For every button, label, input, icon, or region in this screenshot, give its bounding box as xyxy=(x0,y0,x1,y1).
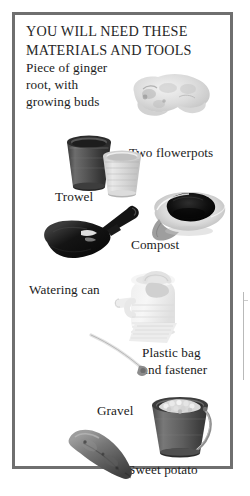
item-label-watering-can: Watering can xyxy=(29,282,100,297)
ginger-root-image xyxy=(121,67,217,125)
plastic-bag-and-fastener-image xyxy=(89,321,181,381)
compost-image xyxy=(141,183,233,247)
gravel-bucket-image xyxy=(145,391,221,465)
sweet-potato-image xyxy=(59,423,145,485)
page-margin-tick xyxy=(244,300,248,301)
page-margin-rule xyxy=(243,292,244,380)
item-label-ginger: Piece of ginger root, with growing buds xyxy=(26,60,107,111)
page-root: YOU WILL NEED THESE MATERIALS AND TOOLS … xyxy=(0,0,250,496)
trowel-image xyxy=(37,202,143,264)
item-label-gravel: Gravel xyxy=(97,403,133,418)
materials-panel: YOU WILL NEED THESE MATERIALS AND TOOLS … xyxy=(12,12,233,469)
page-title: YOU WILL NEED THESE MATERIALS AND TOOLS xyxy=(26,22,192,59)
